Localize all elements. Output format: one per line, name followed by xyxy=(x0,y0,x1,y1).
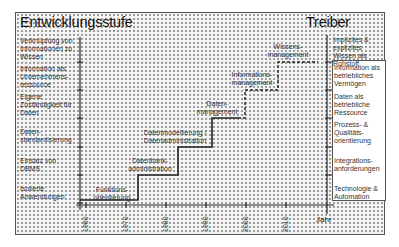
year-tick-label: 1990 xyxy=(202,216,209,232)
x-axis-label: Jahr xyxy=(316,215,332,224)
step-label: Datenmodellierung / Datenadministration xyxy=(138,129,212,145)
driver-label: Technologie & Automation xyxy=(334,185,384,201)
year-tick-label: 1960 xyxy=(82,216,89,232)
driver-label: Daten als betriebliche Ressource xyxy=(334,93,384,117)
stage-label: Einsatz von DBMS xyxy=(20,157,78,173)
stage-label: Daten-standardisierung xyxy=(20,128,78,144)
stage-label: Information als Unternehmens-ressource xyxy=(20,65,78,89)
stage-label: Eigene Zuständigkeit für Daten xyxy=(20,93,78,117)
step-label: Wissens-management xyxy=(264,43,312,59)
stage-label: Verknüpfung von Informationen zu Wissen xyxy=(20,37,78,61)
step-label: Funktions-orientierung xyxy=(88,186,136,202)
step-label: Informations-management xyxy=(226,71,278,87)
left-title: Entwicklungsstufe xyxy=(20,14,133,30)
year-tick-label: 1970 xyxy=(122,216,129,232)
step-label: Daten-management xyxy=(196,100,238,116)
right-title: Treiber xyxy=(306,14,350,30)
year-tick-label: 2010 xyxy=(282,216,289,232)
stage-label: Isolierte Anwendungen xyxy=(20,185,78,201)
driver-label: Information als betriebliches Vermögen xyxy=(334,64,384,88)
year-tick-label: 1980 xyxy=(162,216,169,232)
step-label: Datenbank-administration xyxy=(124,157,176,173)
year-tick-label: 2000 xyxy=(242,216,249,232)
driver-label: Integrations-anforderungen xyxy=(334,157,384,173)
driver-label: Prozess- & Qualitäts-orientierung xyxy=(334,121,384,145)
